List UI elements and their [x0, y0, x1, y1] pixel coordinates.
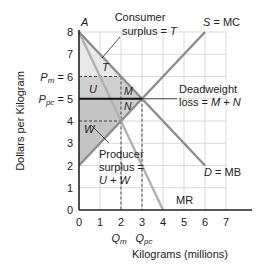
- producer-surplus-label-line2: surplus =: [99, 161, 144, 173]
- y-tick-2: 2: [67, 160, 73, 172]
- pm-label: Pm = 6: [40, 71, 73, 85]
- area-u: [79, 77, 121, 99]
- economics-diagram: 0 1 2 3 4 7 8 Pm = 6 Ppc = 5 0 1 2 3 4 5…: [0, 0, 267, 274]
- qpc-label: Qpc: [135, 232, 152, 246]
- x-tick-3: 3: [139, 216, 145, 228]
- x-tick-7: 7: [223, 216, 229, 228]
- x-tick-6: 6: [202, 216, 208, 228]
- x-tick-labels: 0 1 2 3 4 5 6 7: [76, 216, 229, 228]
- deadweight-label-line2: loss = M + N: [179, 96, 241, 108]
- x-tick-2: 2: [118, 216, 124, 228]
- point-a-label: A: [80, 16, 88, 28]
- supply-label: S = MC: [203, 16, 240, 28]
- y-tick-1: 1: [67, 182, 73, 194]
- area-u-label: U: [89, 83, 97, 95]
- area-n-label: N: [124, 100, 132, 112]
- consumer-surplus-leader: [102, 37, 120, 58]
- consumer-surplus-label-line2: surplus = T: [122, 25, 178, 37]
- producer-surplus-label-line1: Producer: [99, 148, 144, 160]
- area-m-label: M: [124, 85, 133, 97]
- ppc-label: Ppc = 5: [39, 93, 73, 107]
- consumer-surplus-label-line1: Consumer: [115, 11, 166, 23]
- y-tick-8: 8: [67, 26, 73, 38]
- producer-surplus-label-line3: U + W: [99, 174, 131, 186]
- deadweight-label-line1: Deadweight: [179, 83, 237, 95]
- y-tick-3: 3: [67, 137, 73, 149]
- y-axis-title: Dollars per Kilogram: [14, 71, 26, 171]
- y-tick-0: 0: [67, 204, 73, 216]
- area-w-label: W: [84, 123, 96, 135]
- y-tick-labels: 0 1 2 3 4 7 8: [67, 26, 73, 216]
- y-tick-7: 7: [67, 48, 73, 60]
- demand-label: D = MB: [204, 166, 241, 178]
- x-tick-5: 5: [181, 216, 187, 228]
- x-axis-title: Kilograms (millions): [132, 248, 228, 260]
- x-tick-0: 0: [76, 216, 82, 228]
- qm-label: Qm: [111, 232, 127, 246]
- y-tick-4: 4: [67, 115, 73, 127]
- x-tick-4: 4: [160, 216, 166, 228]
- x-tick-1: 1: [97, 216, 103, 228]
- mr-label: MR: [176, 194, 193, 206]
